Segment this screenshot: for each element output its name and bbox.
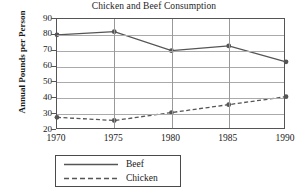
gridline-horizontal [57,82,284,83]
legend-line-solid-icon [62,157,120,172]
y-tick-label: 70 [30,45,52,54]
gridline-vertical [114,19,115,128]
y-tick-mark [51,129,56,130]
legend-item-beef: Beef [56,157,182,172]
chart-title: Chicken and Beef Consumption [0,1,308,11]
y-tick-label: 40 [30,93,52,102]
data-point-chicken [55,115,60,120]
legend-item-chicken: Chicken [56,171,182,186]
y-axis-tick-labels: 2030405060708090 [26,18,52,129]
legend-label-beef: Beef [126,159,144,170]
gridline-vertical [172,19,173,128]
y-tick-mark [51,81,56,82]
y-tick-label: 80 [30,29,52,38]
x-axis-tick-labels: 19701975198019851990 [56,133,285,147]
gridline-horizontal [57,67,284,68]
x-tick-label: 1980 [151,133,191,143]
gridline-horizontal [57,114,284,115]
chart-legend: Beef Chicken [55,155,181,187]
y-tick-mark [51,97,56,98]
gridline-horizontal [57,51,284,52]
x-tick-label: 1985 [208,133,248,143]
y-tick-label: 30 [30,109,52,118]
x-tick-label: 1975 [93,133,133,143]
y-tick-mark [51,66,56,67]
legend-line-dashed-icon [62,171,120,186]
legend-label-chicken: Chicken [126,173,158,184]
data-point-beef [284,59,289,64]
plot-area [56,18,285,129]
y-tick-mark [51,50,56,51]
gridline-horizontal [57,35,284,36]
y-tick-mark [51,18,56,19]
gridline-horizontal [57,98,284,99]
gridline-vertical [229,19,230,128]
y-tick-label: 90 [30,14,52,23]
data-point-chicken [284,94,289,99]
y-tick-label: 60 [30,61,52,70]
y-tick-label: 50 [30,77,52,86]
y-tick-mark [51,34,56,35]
y-tick-mark [51,113,56,114]
chart-figure: Chicken and Beef Consumption Annual Poun… [0,0,308,192]
x-tick-label: 1990 [265,133,305,143]
x-tick-label: 1970 [36,133,76,143]
